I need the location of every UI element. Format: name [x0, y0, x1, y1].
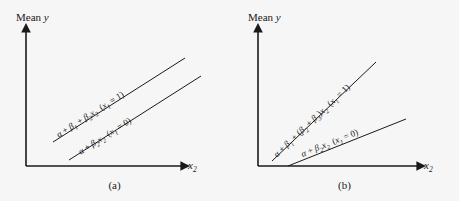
panel-b-x-axis-label: x2	[424, 160, 433, 174]
panel-b: Mean y x2 α + β1 + (β2 + β3)x2(x1 = 1) α…	[230, 0, 459, 201]
panel-a: Mean y x2 α + β1 + β2x2(x1 = 1) α + β2x2…	[0, 0, 229, 201]
panel-b-caption: (b)	[230, 180, 459, 191]
regression-interaction-figure: Mean y x2 α + β1 + β2x2(x1 = 1) α + β2x2…	[0, 0, 459, 201]
panel-a-x-axis-label: x2	[188, 160, 197, 174]
panel-a-caption: (a)	[0, 180, 229, 191]
panel-a-y-axis-label: Mean y	[16, 12, 49, 23]
panel-b-y-axis-label: Mean y	[248, 12, 281, 23]
